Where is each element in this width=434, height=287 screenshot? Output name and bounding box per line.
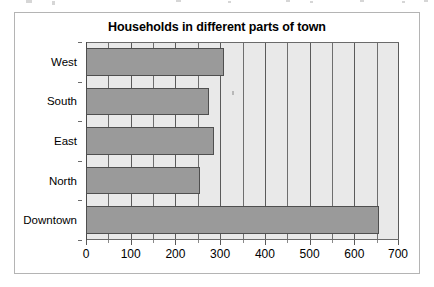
x-tick-label-400: 400 xyxy=(255,247,275,261)
chart-frame: Households in different parts of town We… xyxy=(14,12,420,274)
y-axis-tick xyxy=(78,82,82,83)
bar-west[interactable] xyxy=(86,48,224,76)
x-axis-tick-450 xyxy=(287,240,288,243)
x-tick-label-700: 700 xyxy=(388,247,408,261)
x-axis-tick-550 xyxy=(332,240,333,243)
y-label-downtown: Downtown xyxy=(23,214,77,226)
x-axis-tick-250 xyxy=(198,240,199,243)
scan-artifacts xyxy=(0,0,434,10)
y-label-west: West xyxy=(51,56,77,68)
x-axis-tick-150 xyxy=(153,240,154,243)
x-axis-tick-0 xyxy=(86,240,87,245)
bar-downtown[interactable] xyxy=(86,206,379,234)
y-axis-category-labels: West South East North Downtown xyxy=(15,42,82,240)
x-tick-label-100: 100 xyxy=(121,247,141,261)
x-tick-label-500: 500 xyxy=(300,247,320,261)
x-axis: 0 100 200 300 400 500 600 700 xyxy=(86,240,399,270)
x-axis-tick-200 xyxy=(175,240,176,245)
x-axis-tick-400 xyxy=(265,240,266,245)
x-tick-label-300: 300 xyxy=(210,247,230,261)
bars-layer xyxy=(86,42,399,240)
y-axis-tick xyxy=(78,42,82,43)
x-axis-tick-500 xyxy=(310,240,311,245)
x-tick-label-200: 200 xyxy=(165,247,185,261)
x-axis-tick-700 xyxy=(398,240,399,245)
x-axis-tick-350 xyxy=(243,240,244,243)
y-axis-tick xyxy=(78,121,82,122)
plot-wrapper xyxy=(86,42,399,240)
bar-east[interactable] xyxy=(86,127,214,155)
x-axis-tick-100 xyxy=(131,240,132,245)
x-tick-label-600: 600 xyxy=(344,247,364,261)
y-label-south: South xyxy=(47,95,77,107)
bar-north[interactable] xyxy=(86,167,200,195)
y-label-east: East xyxy=(54,135,77,147)
x-tick-label-0: 0 xyxy=(83,247,90,261)
y-label-north: North xyxy=(49,175,77,187)
x-axis-tick-50 xyxy=(108,240,109,243)
chart-title: Households in different parts of town xyxy=(15,20,419,34)
bar-south[interactable] xyxy=(86,88,209,116)
y-axis-tick xyxy=(78,240,82,241)
y-axis-tick xyxy=(78,161,82,162)
x-axis-tick-300 xyxy=(220,240,221,245)
y-axis-tick xyxy=(78,200,82,201)
x-axis-tick-650 xyxy=(377,240,378,243)
x-axis-tick-600 xyxy=(354,240,355,245)
